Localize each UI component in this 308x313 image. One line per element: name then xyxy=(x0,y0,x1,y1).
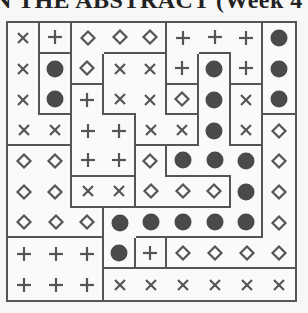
grid-cell[interactable] xyxy=(40,208,72,239)
grid-cell[interactable] xyxy=(40,54,72,85)
grid-cell[interactable] xyxy=(167,238,199,269)
grid-cell[interactable] xyxy=(72,85,104,116)
cross-icon xyxy=(141,275,161,295)
grid-cell[interactable] xyxy=(40,238,72,269)
grid-cell[interactable] xyxy=(231,115,263,146)
grid-cell[interactable] xyxy=(263,85,295,116)
dot-icon xyxy=(236,151,256,171)
grid-cell[interactable] xyxy=(104,269,136,300)
cross-icon xyxy=(140,90,160,110)
grid-cell[interactable] xyxy=(231,208,263,239)
grid-cell[interactable] xyxy=(104,115,136,146)
grid-cell[interactable] xyxy=(104,54,136,85)
grid-cell[interactable] xyxy=(104,146,136,177)
grid-cell[interactable] xyxy=(231,238,263,269)
dot-icon xyxy=(204,121,224,141)
grid-cell[interactable] xyxy=(167,177,199,208)
grid-cell[interactable] xyxy=(167,23,199,54)
grid-cell[interactable] xyxy=(8,269,40,300)
grid-cell[interactable] xyxy=(167,269,199,300)
grid-cell[interactable] xyxy=(231,269,263,300)
cross-icon xyxy=(45,120,65,140)
grid-cell[interactable] xyxy=(72,269,104,300)
grid-cell[interactable] xyxy=(104,238,136,269)
grid-cell[interactable] xyxy=(167,208,199,239)
grid-cell[interactable] xyxy=(40,269,72,300)
grid-cell[interactable] xyxy=(8,54,40,85)
grid-cell[interactable] xyxy=(8,146,40,177)
grid-cell[interactable] xyxy=(40,146,72,177)
grid-cell[interactable] xyxy=(104,208,136,239)
grid-cell[interactable] xyxy=(199,85,231,116)
grid-cell[interactable] xyxy=(8,85,40,116)
grid-cell[interactable] xyxy=(104,177,136,208)
grid-cell[interactable] xyxy=(199,177,231,208)
grid-cell[interactable] xyxy=(231,146,263,177)
grid-cell[interactable] xyxy=(231,54,263,85)
grid-cell[interactable] xyxy=(167,85,199,116)
grid-cell[interactable] xyxy=(8,208,40,239)
grid-cell[interactable] xyxy=(136,146,168,177)
grid-cell[interactable] xyxy=(263,269,295,300)
grid-cell[interactable] xyxy=(199,146,231,177)
cross-icon xyxy=(110,59,130,79)
grid-cell[interactable] xyxy=(231,85,263,116)
dot-icon xyxy=(204,59,224,79)
grid-cell[interactable] xyxy=(40,23,72,54)
grid-cell[interactable] xyxy=(104,85,136,116)
grid-cell[interactable] xyxy=(8,238,40,269)
grid-cell[interactable] xyxy=(136,208,168,239)
grid-cell[interactable] xyxy=(136,85,168,116)
grid-cell[interactable] xyxy=(263,54,295,85)
grid-cell[interactable] xyxy=(167,146,199,177)
plus-icon xyxy=(173,28,193,48)
grid-cell[interactable] xyxy=(72,23,104,54)
grid-cell[interactable] xyxy=(72,54,104,85)
grid-cell[interactable] xyxy=(40,115,72,146)
grid-cell[interactable] xyxy=(136,54,168,85)
diamond-icon xyxy=(77,212,97,232)
plus-icon xyxy=(77,244,97,264)
grid-cell[interactable] xyxy=(136,238,168,269)
grid-cell[interactable] xyxy=(231,23,263,54)
dot-icon xyxy=(236,182,256,202)
grid-cell[interactable] xyxy=(199,23,231,54)
grid-cell[interactable] xyxy=(8,115,40,146)
diamond-icon xyxy=(237,243,257,263)
grid-cell[interactable] xyxy=(136,177,168,208)
diamond-icon xyxy=(77,58,97,78)
grid-cell[interactable] xyxy=(72,238,104,269)
cross-icon xyxy=(110,275,130,295)
grid-cell[interactable] xyxy=(167,115,199,146)
grid-cell[interactable] xyxy=(199,208,231,239)
grid-cell[interactable] xyxy=(136,269,168,300)
cross-icon xyxy=(14,120,34,140)
grid-cell[interactable] xyxy=(263,238,295,269)
grid-cell[interactable] xyxy=(231,177,263,208)
plus-icon xyxy=(46,275,66,295)
cross-icon xyxy=(205,275,225,295)
grid-cell[interactable] xyxy=(167,54,199,85)
plus-icon xyxy=(14,275,34,295)
grid-cell[interactable] xyxy=(72,115,104,146)
grid-cell[interactable] xyxy=(8,23,40,54)
grid-cell[interactable] xyxy=(72,177,104,208)
grid-cell[interactable] xyxy=(263,115,295,146)
cross-icon xyxy=(13,90,33,110)
grid-cell[interactable] xyxy=(199,115,231,146)
grid-cell[interactable] xyxy=(72,208,104,239)
grid-cell[interactable] xyxy=(263,208,295,239)
grid-cell[interactable] xyxy=(104,23,136,54)
grid-cell[interactable] xyxy=(40,85,72,116)
grid-cell[interactable] xyxy=(8,177,40,208)
grid-cell[interactable] xyxy=(136,115,168,146)
grid-cell[interactable] xyxy=(263,23,295,54)
grid-cell[interactable] xyxy=(199,54,231,85)
grid-cell[interactable] xyxy=(136,23,168,54)
grid-cell[interactable] xyxy=(263,146,295,177)
grid-cell[interactable] xyxy=(199,238,231,269)
grid-cell[interactable] xyxy=(40,177,72,208)
grid-cell[interactable] xyxy=(263,177,295,208)
grid-cell[interactable] xyxy=(72,146,104,177)
grid-cell[interactable] xyxy=(199,269,231,300)
